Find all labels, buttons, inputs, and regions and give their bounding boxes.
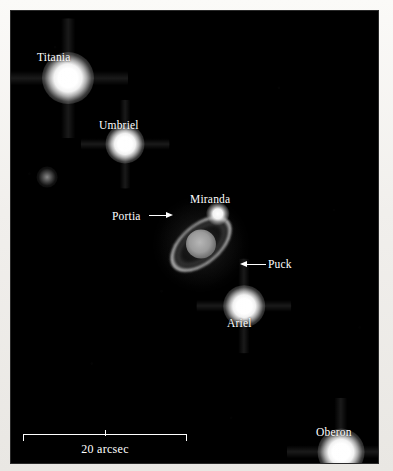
- arrow-portia: [149, 211, 173, 220]
- arrow-puck: [240, 260, 266, 269]
- label-miranda: Miranda: [190, 194, 230, 206]
- figure-page: TitaniaUmbrielMirandaArielOberon PortiaP…: [0, 0, 393, 471]
- label-titania: Titania: [37, 52, 71, 64]
- scale-bar-tick-start: [23, 434, 24, 441]
- arrow-shaft: [149, 215, 167, 216]
- label-puck: Puck: [268, 259, 292, 271]
- label-oberon: Oberon: [316, 427, 352, 439]
- scale-bar-rule: [23, 434, 187, 435]
- uranus-disk: [186, 230, 216, 259]
- ccd-noise-overlay: [11, 11, 378, 463]
- sky-image-frame: TitaniaUmbrielMirandaArielOberon PortiaP…: [11, 11, 378, 463]
- label-umbriel: Umbriel: [99, 120, 139, 132]
- moon-unlabeled-2: [37, 167, 58, 188]
- arrow-shaft: [246, 264, 266, 265]
- scale-bar-tick-end: [186, 434, 187, 441]
- uranus-ring-outer: [161, 206, 242, 283]
- scale-bar-tick-mid: [105, 430, 106, 436]
- uranus-halo: [153, 196, 249, 292]
- uranus-ring-inner: [168, 213, 234, 275]
- moon-miranda: [206, 202, 229, 225]
- uranus-ring-glow: [158, 201, 244, 287]
- arrow-head: [240, 261, 247, 267]
- arrow-head: [166, 212, 173, 218]
- label-ariel: Ariel: [227, 318, 252, 330]
- scale-bar-label: 20 arcsec: [23, 442, 187, 457]
- label-portia: Portia: [112, 211, 141, 223]
